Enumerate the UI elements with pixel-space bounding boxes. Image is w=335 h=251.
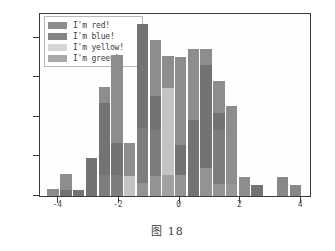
x-tick-label: -4 [45, 200, 69, 209]
legend-swatch-icon [48, 55, 67, 62]
bar [213, 184, 224, 196]
bar [162, 175, 173, 196]
bar [188, 120, 199, 196]
legend: I'm red!I'm blue!I'm yellow!I'm green! [44, 16, 143, 67]
bar [200, 168, 211, 196]
bar [239, 177, 250, 196]
legend-swatch-icon [48, 22, 67, 29]
bar [251, 185, 262, 196]
bar [150, 176, 161, 196]
x-tick-label: -2 [106, 200, 130, 209]
bar [226, 106, 237, 196]
bar [175, 175, 186, 196]
bar [137, 183, 148, 196]
bar [60, 190, 71, 196]
x-tick-label: 4 [288, 200, 312, 209]
bar [73, 190, 84, 196]
legend-item: I'm blue! [48, 31, 138, 41]
figure-caption: 图 18 [0, 222, 335, 238]
legend-item: I'm yellow! [48, 42, 138, 52]
bar [137, 24, 148, 196]
legend-item: I'm green! [48, 53, 138, 63]
legend-item: I'm red! [48, 20, 138, 30]
bar [99, 103, 110, 196]
bar [277, 177, 288, 196]
figure-container: 05101520 -4-2024 I'm red!I'm blue!I'm ye… [0, 0, 335, 251]
legend-swatch-icon [48, 44, 67, 51]
legend-label: I'm red! [73, 21, 110, 30]
bar [124, 176, 135, 196]
bar [86, 158, 97, 196]
bar [111, 143, 122, 196]
bar [47, 189, 58, 196]
bar [290, 185, 301, 196]
x-tick-label: 0 [167, 200, 191, 209]
legend-label: I'm yellow! [73, 43, 124, 52]
x-tick-label: 2 [227, 200, 251, 209]
legend-label: I'm blue! [73, 32, 115, 41]
bar [226, 184, 237, 196]
legend-swatch-icon [48, 33, 67, 40]
